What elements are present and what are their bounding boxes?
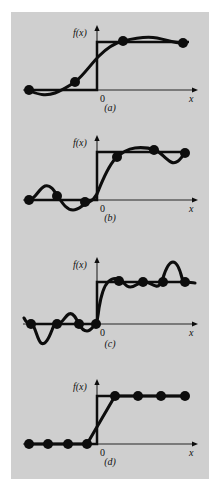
- sample-dots-b: [24, 145, 190, 207]
- axes-d: [23, 379, 198, 447]
- y-axis-label-b: f(x): [73, 137, 88, 149]
- approximation-curve-c: [24, 262, 195, 344]
- sample-dot: [70, 77, 80, 87]
- axes-a: [23, 25, 198, 93]
- sample-dot: [52, 319, 62, 329]
- sample-dot: [158, 277, 168, 287]
- y-axis-label-a: f(x): [73, 27, 88, 39]
- sample-dot: [43, 439, 53, 449]
- caption-a: (a): [11, 102, 209, 113]
- caption-b: (b): [11, 212, 209, 223]
- sample-dot: [138, 277, 148, 287]
- sample-dot: [133, 391, 143, 401]
- axes-b: [23, 135, 198, 203]
- panel-d-plot: f(x) x 0: [11, 370, 209, 462]
- step-function-d: [27, 396, 189, 444]
- panel-a: f(x) x 0 (a): [11, 16, 209, 108]
- step-function-c: [27, 282, 189, 324]
- sample-dot: [110, 391, 120, 401]
- panel-c-plot: f(x) x 0: [11, 238, 209, 348]
- panel-a-plot: f(x) x 0: [11, 16, 209, 108]
- sample-dot: [118, 36, 128, 46]
- figure-plate: f(x) x 0 (a) f(x): [11, 12, 209, 479]
- axes-c: [23, 257, 198, 327]
- x-axis-label-c: x: [188, 327, 194, 338]
- sample-dot: [26, 319, 36, 329]
- sample-dots-d: [24, 391, 190, 449]
- approximation-curve-a: [29, 37, 183, 94]
- origin-label-c: 0: [100, 327, 105, 338]
- approximation-curve-d: [29, 396, 185, 444]
- sample-dot: [24, 195, 34, 205]
- sample-dot: [149, 145, 159, 155]
- sample-dot: [112, 152, 122, 162]
- sample-dot: [91, 319, 101, 329]
- sample-dot: [178, 38, 188, 48]
- panel-b: f(x) x 0 (b): [11, 126, 209, 218]
- sample-dot: [24, 85, 34, 95]
- panel-c: f(x) x 0 (c): [11, 238, 209, 348]
- sample-dot: [114, 276, 124, 286]
- caption-d: (d): [11, 456, 209, 467]
- sample-dot: [180, 391, 190, 401]
- panel-d: f(x) x 0 (d): [11, 370, 209, 462]
- sample-dot: [24, 439, 34, 449]
- panel-b-plot: f(x) x 0: [11, 126, 209, 218]
- sample-dots-a: [24, 36, 188, 95]
- sample-dot: [80, 197, 90, 207]
- sample-dot: [156, 391, 166, 401]
- y-axis-label-d: f(x): [73, 381, 88, 393]
- sample-dot: [180, 148, 190, 158]
- sample-dot: [63, 439, 73, 449]
- y-axis-label-c: f(x): [73, 259, 88, 271]
- caption-c: (c): [11, 338, 209, 349]
- sample-dot: [74, 319, 84, 329]
- sample-dot: [180, 277, 190, 287]
- sample-dot: [82, 439, 92, 449]
- sample-dot: [52, 191, 62, 201]
